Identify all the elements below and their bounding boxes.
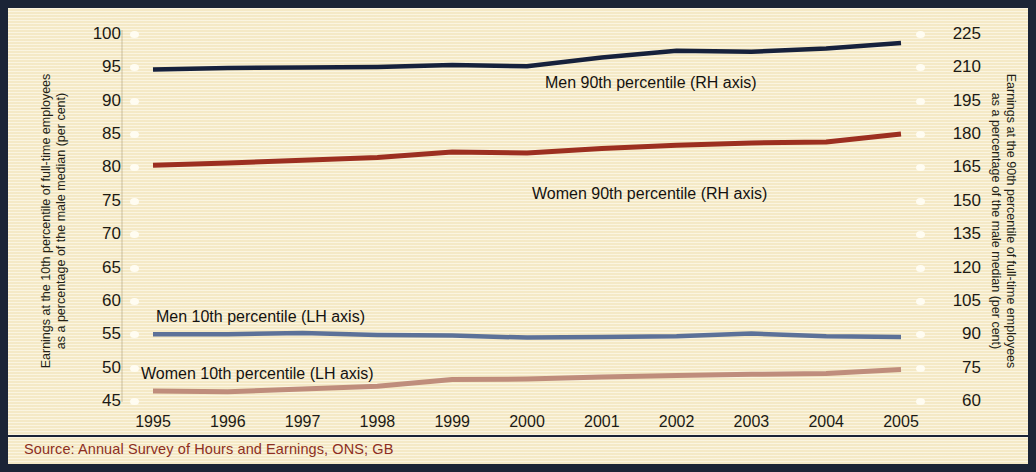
series-line-1 bbox=[153, 134, 901, 165]
series-label-1: Women 90th percentile (RH axis) bbox=[532, 185, 767, 203]
chart-figure: Earnings at the 10th percentile of full-… bbox=[0, 0, 1036, 472]
source-note: Source: Annual Survey of Hours and Earni… bbox=[24, 441, 394, 457]
series-line-0 bbox=[153, 43, 901, 70]
series-label-3: Women 10th percentile (LH axis) bbox=[141, 365, 374, 383]
series-label-2: Men 10th percentile (LH axis) bbox=[156, 308, 365, 326]
chart-panel: Earnings at the 10th percentile of full-… bbox=[8, 8, 1028, 435]
series-line-2 bbox=[153, 333, 901, 338]
source-bar: Source: Annual Survey of Hours and Earni… bbox=[8, 437, 1028, 464]
series-label-0: Men 90th percentile (RH axis) bbox=[545, 74, 757, 92]
